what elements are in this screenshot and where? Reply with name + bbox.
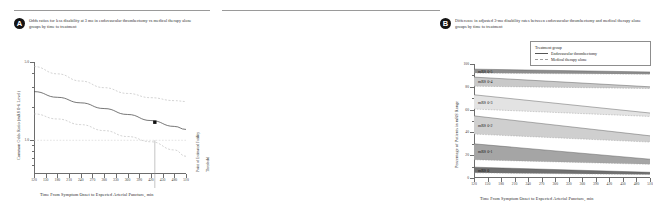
x-tick <box>542 178 543 182</box>
panel-a-badge: A <box>14 18 25 29</box>
x-tick-label: 330 <box>113 178 119 182</box>
x-tick-label: 480 <box>172 178 178 182</box>
panel-a-threshold-note: Threshold <box>206 157 210 172</box>
band-area <box>474 144 650 165</box>
panel-a-curves <box>34 62 186 174</box>
x-tick <box>69 174 70 178</box>
x-tick-label: 210 <box>512 182 518 186</box>
legend-swatch <box>535 53 548 54</box>
series-line <box>34 92 186 130</box>
band-area <box>474 167 650 174</box>
panel-a-x-axis-title: Time From Symptom Onset to Expected Arte… <box>40 192 154 197</box>
x-tick <box>174 174 175 178</box>
x-tick-label: 360 <box>580 182 586 186</box>
x-tick-label: 480 <box>634 182 640 186</box>
x-tick-label: 390 <box>593 182 599 186</box>
x-tick <box>81 174 82 178</box>
x-tick <box>46 174 47 178</box>
x-tick-label: 240 <box>525 182 531 186</box>
x-tick-label: 390 <box>136 178 142 182</box>
x-tick <box>488 178 489 182</box>
x-tick-label: 300 <box>552 182 558 186</box>
legend-label: Endovascular thrombectomy <box>551 51 597 56</box>
panel-a: A Odds ratios for less disability at 3 m… <box>0 0 218 216</box>
x-tick-label: 270 <box>539 182 545 186</box>
x-tick-label: 210 <box>66 178 72 182</box>
legend-swatch <box>535 59 548 60</box>
x-tick-label: 270 <box>90 178 96 182</box>
panel-b-plot: 020406080100 120150180210240270300330360… <box>474 64 650 178</box>
x-tick-label: 420 <box>148 178 154 182</box>
x-tick <box>116 174 117 178</box>
legend-items: Endovascular thrombectomyMedical therapy… <box>535 51 647 62</box>
series-line <box>34 67 186 102</box>
x-tick <box>151 174 152 178</box>
x-tick-label: 240 <box>78 178 84 182</box>
x-tick-label: 180 <box>498 182 504 186</box>
legend-item: Medical therapy alone <box>535 57 647 62</box>
x-tick-label: 300 <box>101 178 107 182</box>
x-tick-label: 450 <box>160 178 166 182</box>
panel-b: B Difference in adjusted 3-mo disability… <box>218 0 452 216</box>
x-tick-label: 150 <box>43 178 49 182</box>
x-tick <box>474 178 475 182</box>
panel-a-y-axis-title: Common Odds Ratio (mRS 0-6 Level) <box>16 91 21 160</box>
x-tick <box>57 174 58 178</box>
band-label: mRS 0-3 <box>478 100 493 105</box>
band-label: mRS 0-4 <box>478 79 493 84</box>
x-tick-label: 120 <box>31 178 37 182</box>
x-tick <box>555 178 556 182</box>
x-tick-label: 120 <box>471 182 477 186</box>
band-area <box>474 95 650 117</box>
x-tick-label: 510 <box>183 178 189 182</box>
panel-b-header: B Difference in adjusted 3-mo disability… <box>440 17 652 31</box>
band-area <box>474 77 650 88</box>
x-tick <box>636 178 637 182</box>
panel-b-x-axis-title: Time From Symptom Onset to Expected Arte… <box>480 196 594 201</box>
panel-a-header: A Odds ratios for less disability at 3 m… <box>14 17 204 31</box>
band-label: mRS 0-5 <box>478 69 493 74</box>
legend-label: Medical therapy alone <box>551 57 587 62</box>
panel-b-caption: Difference in adjusted 3-mo disability r… <box>455 17 652 31</box>
x-tick <box>128 174 129 178</box>
panel-a-futility-note: Point of Estimated Futility <box>196 132 200 172</box>
panel-a-plot: 1.05.0 120150180210240270300330360390420… <box>34 62 186 174</box>
x-tick <box>569 178 570 182</box>
x-tick-label: 330 <box>566 182 572 186</box>
y-tick-label: 40 <box>465 130 469 134</box>
y-tick-label: 80 <box>465 85 469 89</box>
x-tick <box>623 178 624 182</box>
y-tick-label: 5.0 <box>24 60 29 64</box>
x-tick <box>163 174 164 178</box>
y-tick-label: 60 <box>465 108 469 112</box>
panel-b-badge: B <box>440 18 451 29</box>
x-tick <box>92 174 93 178</box>
x-tick <box>34 174 35 178</box>
x-tick <box>139 174 140 178</box>
x-tick-label: 150 <box>485 182 491 186</box>
band-label: mRS 0-2 <box>478 123 493 128</box>
panel-b-legend: Treatment group Endovascular thrombectom… <box>530 41 651 66</box>
y-tick-label: 1.0 <box>24 138 29 142</box>
x-tick <box>609 178 610 182</box>
legend-item: Endovascular thrombectomy <box>535 51 647 56</box>
x-tick-label: 420 <box>607 182 613 186</box>
panel-a-caption: Odds ratios for less disability at 3 mo … <box>29 17 204 31</box>
x-tick <box>186 174 187 178</box>
x-tick <box>104 174 105 178</box>
x-tick <box>650 178 651 182</box>
y-tick-label: 0 <box>467 176 469 180</box>
x-tick <box>528 178 529 182</box>
x-tick-label: 510 <box>647 182 653 186</box>
x-tick-label: 360 <box>125 178 131 182</box>
x-tick <box>501 178 502 182</box>
x-tick <box>515 178 516 182</box>
y-tick-label: 20 <box>465 153 469 157</box>
x-tick <box>596 178 597 182</box>
band-label: mRS 0 <box>478 168 489 173</box>
x-tick-label: 180 <box>55 178 61 182</box>
panel-b-bands <box>474 64 650 178</box>
legend-title: Treatment group <box>535 45 647 50</box>
panel-b-y-axis-title: Percentage of Patients in mRS Range <box>454 101 459 168</box>
